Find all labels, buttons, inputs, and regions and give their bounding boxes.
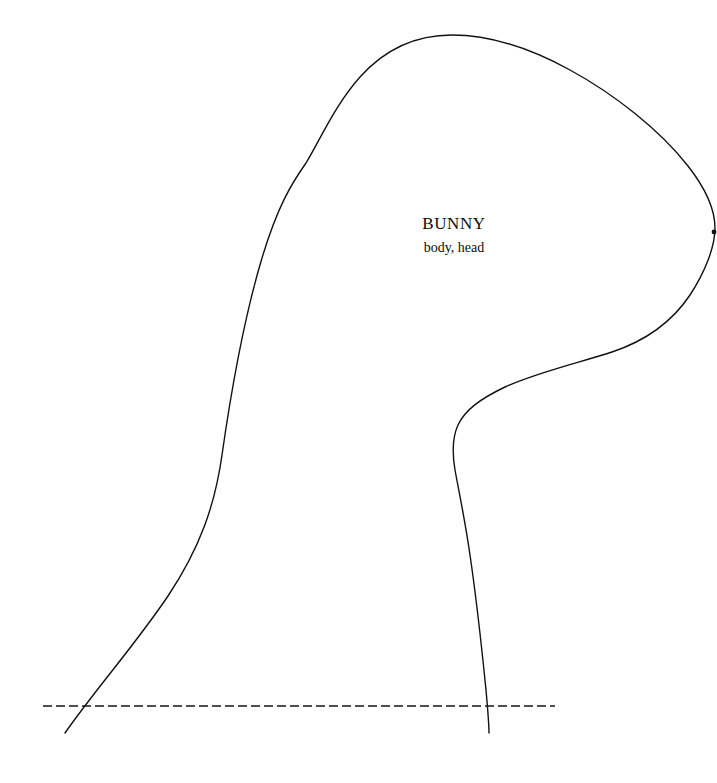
seam-notch-icon [712, 230, 717, 235]
sheet-background [0, 0, 717, 783]
pattern-drawing [0, 0, 717, 783]
pattern-sheet: BUNNY body, head [0, 0, 717, 783]
